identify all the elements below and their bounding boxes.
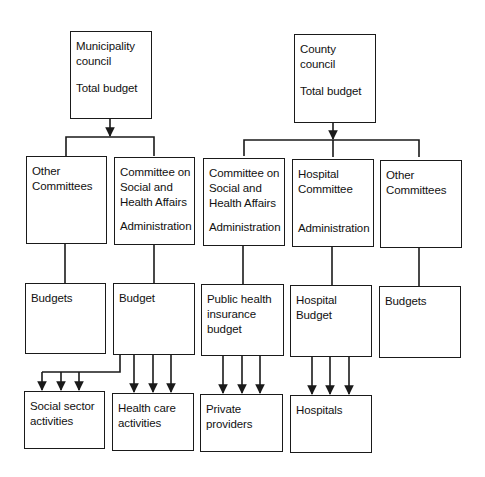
label: Hospital <box>298 167 369 182</box>
county-title-2: council <box>300 57 371 72</box>
county-council-box: County council Total budget <box>294 34 376 123</box>
label: Committee on <box>120 165 190 180</box>
county-social-health-committee-box: Committee on Social and Health Affairs A… <box>203 158 285 246</box>
administration-label: Administration <box>120 219 190 234</box>
muni-other-committees-box: Other Committees <box>26 156 107 244</box>
county-hospital-committee-box: Hospital Committee Administration <box>292 159 374 247</box>
label: Health Affairs <box>120 195 190 210</box>
health-care-activities-box: Health care activities <box>112 393 194 451</box>
county-title-1: County <box>300 42 371 57</box>
label: Budgets <box>31 291 101 306</box>
label: Health care <box>118 401 189 416</box>
label: Other <box>32 164 102 179</box>
municipality-title-1: Municipality <box>76 39 147 54</box>
social-sector-activities-box: Social sector activities <box>24 391 105 449</box>
label: Hospital <box>296 293 367 308</box>
muni-social-health-committee-box: Committee on Social and Health Affairs A… <box>114 157 195 245</box>
muni-social-budget-box: Budget <box>113 283 195 355</box>
label: Social and <box>209 181 280 196</box>
label: Other <box>386 168 457 183</box>
private-providers-box: Private providers <box>200 394 283 452</box>
label: providers <box>206 417 278 432</box>
bus-county <box>244 140 419 157</box>
label: Public health <box>207 292 279 307</box>
label: Health Affairs <box>209 196 280 211</box>
county-other-committees-box: Other Committees <box>380 160 462 248</box>
municipality-total-budget: Total budget <box>76 81 147 96</box>
label: Budget <box>296 308 367 323</box>
administration-label: Administration <box>209 220 280 235</box>
administration-label: Administration <box>298 221 369 236</box>
label: insurance <box>207 307 279 322</box>
label: Budget <box>119 291 190 306</box>
muni-other-budgets-box: Budgets <box>25 283 106 354</box>
label: Social sector <box>30 399 100 414</box>
hospitals-box: Hospitals <box>290 395 372 453</box>
label: Budgets <box>385 294 456 309</box>
label: Committees <box>386 183 457 198</box>
county-other-budgets-box: Budgets <box>379 286 461 358</box>
label: Committee <box>298 182 369 197</box>
municipality-title-2: council <box>76 54 147 69</box>
label: activities <box>30 414 100 429</box>
county-total-budget: Total budget <box>300 84 371 99</box>
label: budget <box>207 322 279 337</box>
label: Hospitals <box>296 403 367 418</box>
bus-municipality <box>66 137 154 156</box>
label: Social and <box>120 180 190 195</box>
label: Committee on <box>209 166 280 181</box>
municipality-council-box: Municipality council Total budget <box>70 31 152 119</box>
public-health-insurance-budget-box: Public health insurance budget <box>201 284 284 356</box>
label: Committees <box>32 179 102 194</box>
label: activities <box>118 416 189 431</box>
hospital-budget-box: Hospital Budget <box>290 285 372 357</box>
label: Private <box>206 402 278 417</box>
